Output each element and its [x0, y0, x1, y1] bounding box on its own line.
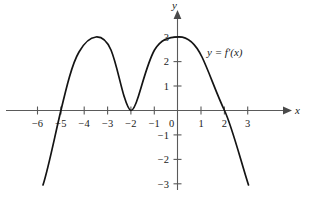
y-tick-label-minus2: −2 [158, 154, 169, 165]
curve-equation-label: y = f′(x) [206, 46, 243, 59]
x-tick-label-minus4: −4 [79, 118, 91, 129]
x-tick-label-minus2: −2 [125, 118, 136, 129]
y-axis-arrowhead [174, 10, 182, 19]
function-plot: x y −6 −5 −4 −3 −2 −1 0 [0, 0, 309, 206]
x-axis: x [6, 104, 300, 116]
x-tick-label-zero: 0 [169, 118, 174, 129]
y-tick-label-3: 3 [164, 32, 169, 43]
y-tick-label-minus3: −3 [158, 179, 169, 190]
y-tick-label-minus1: −1 [158, 130, 169, 141]
x-tick-label-3: 3 [245, 118, 250, 129]
y-tick-label-1: 1 [164, 81, 169, 92]
y-axis-label: y [171, 0, 177, 11]
graph-figure: x y −6 −5 −4 −3 −2 −1 0 [0, 0, 309, 206]
x-tick-label-minus6: −6 [32, 118, 43, 129]
x-axis-label: x [294, 104, 300, 116]
x-axis-arrowhead [283, 107, 292, 115]
x-tick-label-2: 2 [222, 118, 227, 129]
x-tick-labels: −6 −5 −4 −3 −2 −1 0 1 2 3 [32, 118, 250, 129]
y-axis: y [171, 0, 181, 190]
x-tick-label-1: 1 [198, 118, 203, 129]
x-tick-label-minus3: −3 [102, 118, 113, 129]
y-tick-label-2: 2 [164, 56, 169, 67]
x-tick-label-minus1: −1 [149, 118, 160, 129]
